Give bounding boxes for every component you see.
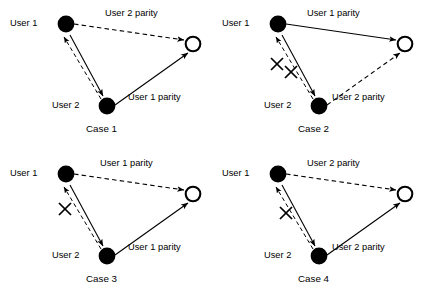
case-3-up-link	[64, 187, 101, 249]
case-1-bottom-edge-label: User 1 parity	[128, 93, 181, 102]
case-1-user2-label: User 2	[52, 101, 79, 110]
case-4-user2-label: User 2	[264, 251, 291, 260]
case-1-caption: Case 1	[86, 124, 117, 134]
case-3-top-edge-label: User 1 parity	[100, 159, 153, 168]
case-3-down-link	[70, 185, 103, 246]
case-2-bottom-edge-label: User 2 parity	[332, 93, 385, 102]
case-4-top-edge-label: User 2 parity	[307, 159, 360, 168]
case-2-user1-node	[270, 16, 287, 33]
case-4-bottom-edge-label: User 2 parity	[332, 243, 385, 252]
case-1-up-link	[64, 37, 101, 99]
case-3-user2-label: User 2	[52, 251, 79, 260]
case-1-destination-node	[186, 37, 201, 52]
case-2-user1-label: User 1	[222, 19, 249, 28]
case-2-down-link	[282, 35, 315, 96]
case-3-cross-up-link	[59, 203, 71, 215]
case-2-user2-node	[311, 98, 328, 115]
case-panel-3: User 1 User 2 User 1 parity User 1 parit…	[0, 150, 212, 299]
case-4-caption: Case 4	[298, 274, 329, 284]
case-1-user2-node	[99, 98, 116, 115]
case-4-user1-node	[270, 166, 287, 183]
case-1-top-edge-label: User 2 parity	[105, 9, 158, 18]
case-3-destination-node	[186, 187, 201, 202]
case-4-cross-down-link	[280, 207, 292, 219]
case-panel-4: User 1 User 2 User 2 parity User 2 parit…	[212, 150, 424, 299]
case-2-cross-up-link	[271, 58, 283, 70]
case-1-top-edge	[74, 24, 184, 40]
case-3-user1-node	[58, 166, 75, 183]
case-2-cross-down-link	[285, 66, 297, 78]
parity-cases-figure: User 1 User 2 User 2 parity User 1 parit…	[0, 0, 424, 299]
case-4-user2-node	[311, 248, 328, 265]
case-4-down-link	[282, 185, 315, 246]
case-4-destination-node	[398, 187, 413, 202]
case-3-bottom-edge-label: User 1 parity	[128, 243, 181, 252]
case-1-user1-label: User 1	[10, 19, 37, 28]
case-2-user2-label: User 2	[264, 101, 291, 110]
case-panel-2: User 1 User 2 User 1 parity User 2 parit…	[212, 0, 424, 149]
case-3-user2-node	[99, 248, 116, 265]
case-2-caption: Case 2	[298, 124, 329, 134]
case-4-top-edge	[286, 174, 396, 190]
case-2-top-edge-label: User 1 parity	[307, 9, 360, 18]
case-3-user1-label: User 1	[10, 169, 37, 178]
case-panel-1: User 1 User 2 User 2 parity User 1 parit…	[0, 0, 212, 149]
case-1-user1-node	[58, 16, 75, 33]
case-1-down-link	[70, 35, 103, 96]
case-2-top-edge	[286, 24, 396, 40]
case-2-destination-node	[398, 37, 413, 52]
case-3-caption: Case 3	[86, 274, 117, 284]
case-4-user1-label: User 1	[222, 169, 249, 178]
case-3-top-edge	[74, 174, 184, 190]
